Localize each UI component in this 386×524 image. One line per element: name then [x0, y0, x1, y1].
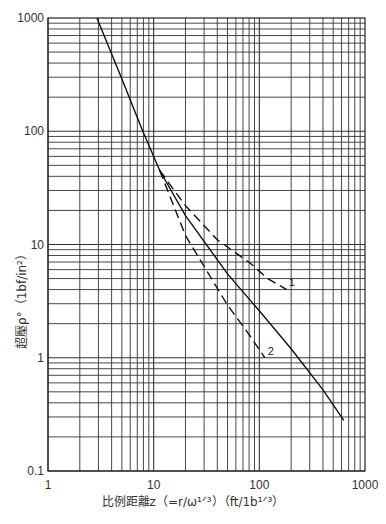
- y-tick-label: 1000: [17, 11, 44, 25]
- tick-labels: 11010010000.11101001000: [17, 11, 378, 492]
- x-tick-label: 1: [45, 478, 52, 492]
- curve-label-2: 2: [268, 345, 274, 357]
- y-tick-label: 1: [37, 351, 44, 365]
- data-curves: [97, 18, 344, 420]
- y-axis-label: 超壓ρ°（1bf/in²）: [12, 199, 29, 399]
- x-tick-label: 1000: [352, 478, 379, 492]
- curve-1: [160, 171, 287, 290]
- x-tick-label: 10: [147, 478, 161, 492]
- y-tick-label: 100: [24, 124, 44, 138]
- x-axis-label: 比例距離z（=r/ω¹ᐟ³）（ft/1b¹ᐟ³）: [0, 492, 386, 509]
- curve-main: [97, 18, 344, 420]
- chart-canvas: 11010010000.11101001000 12: [0, 0, 386, 524]
- x-tick-label: 100: [249, 478, 269, 492]
- y-tick-label: 10: [31, 238, 45, 252]
- y-tick-label: 0.1: [27, 464, 44, 478]
- curve-label-1: 1: [289, 276, 295, 288]
